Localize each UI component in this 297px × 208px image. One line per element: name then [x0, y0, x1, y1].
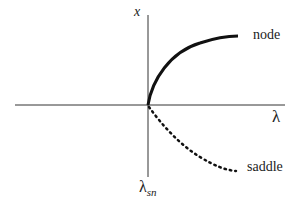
node-branch-label: node: [253, 27, 280, 43]
bifurcation-point-label: λsn: [139, 178, 157, 198]
saddle-branch: [149, 107, 236, 171]
bifurcation-point-subscript: sn: [147, 186, 157, 198]
node-branch: [148, 36, 238, 105]
vertical-axis-label: x: [134, 4, 140, 20]
saddle-branch-label: saddle: [247, 159, 283, 175]
bifurcation-point-symbol: λ: [139, 178, 147, 195]
horizontal-axis-label: λ: [272, 107, 280, 127]
